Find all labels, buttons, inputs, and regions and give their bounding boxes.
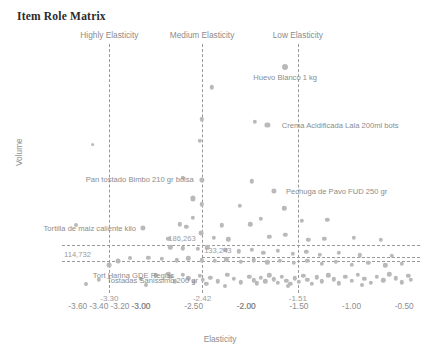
scatter-point[interactable] [263, 279, 267, 283]
scatter-point[interactable] [331, 277, 335, 281]
scatter-point[interactable] [184, 225, 188, 229]
scatter-point[interactable] [394, 276, 398, 280]
scatter-point[interactable] [200, 202, 204, 206]
scatter-point[interactable] [283, 233, 287, 237]
scatter-point[interactable] [304, 250, 308, 254]
scatter-point[interactable] [381, 278, 385, 282]
scatter-point[interactable] [237, 249, 241, 253]
scatter-point[interactable] [249, 248, 253, 252]
scatter-point[interactable] [199, 230, 204, 235]
scatter-point[interactable] [186, 256, 190, 260]
scatter-point[interactable] [107, 262, 112, 267]
scatter-point[interactable] [140, 225, 145, 230]
scatter-point[interactable] [190, 216, 194, 220]
scatter-point[interactable] [252, 119, 256, 123]
chart-root: Item Role Matrix Volume Elasticity 0k100… [0, 0, 440, 355]
quadrant-label: Highly Elasticity [80, 30, 138, 40]
scatter-point[interactable] [249, 179, 253, 183]
scatter-point[interactable] [408, 278, 412, 282]
scatter-point[interactable] [271, 189, 276, 194]
scatter-point[interactable] [375, 274, 379, 278]
scatter-point[interactable] [282, 206, 286, 210]
scatter-point[interactable] [84, 282, 88, 286]
scatter-point[interactable] [238, 203, 242, 207]
scatter-point[interactable] [325, 218, 329, 222]
scatter-point[interactable] [190, 196, 195, 201]
scatter-point[interactable] [387, 272, 391, 276]
scatter-point[interactable] [368, 280, 372, 284]
scatter-point[interactable] [255, 281, 259, 285]
point-annotation: Tostadas Sanissimo 200 gr [107, 275, 198, 284]
scatter-point[interactable] [231, 277, 235, 281]
scatter-point[interactable] [208, 276, 212, 280]
scatter-point[interactable] [225, 272, 229, 276]
scatter-point[interactable] [343, 275, 347, 279]
point-annotation: Crema Acidificada Lala 200ml bots [282, 120, 399, 129]
scatter-point[interactable] [320, 262, 324, 266]
scatter-point[interactable] [334, 260, 338, 264]
scatter-point[interactable] [400, 262, 404, 266]
quadrant-label: Medium Elasticity [170, 30, 235, 40]
scatter-point[interactable] [383, 263, 387, 267]
scatter-point[interactable] [306, 238, 310, 242]
scatter-point[interactable] [204, 281, 208, 285]
x-axis-label: Elasticity [0, 334, 440, 344]
scatter-point[interactable] [226, 237, 230, 241]
scatter-point[interactable] [400, 280, 404, 284]
scatter-plot-area[interactable] [62, 44, 420, 293]
scatter-point[interactable] [216, 279, 220, 283]
scatter-point[interactable] [199, 177, 204, 182]
scatter-point[interactable] [276, 280, 280, 284]
scatter-point[interactable] [326, 273, 330, 277]
scatter-point[interactable] [309, 281, 313, 285]
scatter-point[interactable] [351, 235, 355, 239]
scatter-point[interactable] [315, 275, 319, 279]
scatter-point[interactable] [290, 252, 294, 256]
scatter-point[interactable] [320, 279, 324, 283]
vertical-reference-value: -1.51 [289, 294, 307, 303]
scatter-point[interactable] [265, 260, 269, 264]
scatter-point[interactable] [300, 219, 304, 223]
scatter-point[interactable] [267, 235, 271, 239]
scatter-point[interactable] [259, 216, 263, 220]
scatter-point[interactable] [248, 222, 252, 226]
x-axis-tick: -3.00 [132, 301, 151, 311]
scatter-point[interactable] [349, 279, 353, 283]
scatter-point[interactable] [181, 246, 185, 250]
scatter-point[interactable] [200, 117, 204, 121]
horizontal-reference-value: 186,263 [168, 233, 195, 242]
scatter-point[interactable] [282, 64, 288, 70]
scatter-point[interactable] [322, 236, 326, 240]
scatter-point[interactable] [196, 247, 200, 251]
point-annotation: Pechuga de Pavo FUD 250 gr [286, 187, 387, 196]
scatter-point[interactable] [356, 272, 360, 276]
scatter-point[interactable] [168, 245, 172, 249]
scatter-point[interactable] [146, 256, 150, 260]
scatter-point[interactable] [223, 284, 227, 288]
scatter-point[interactable] [379, 238, 383, 242]
scatter-point[interactable] [366, 261, 370, 265]
scatter-point[interactable] [239, 280, 243, 284]
scatter-point[interactable] [291, 261, 295, 265]
scatter-point[interactable] [211, 236, 215, 240]
scatter-point[interactable] [212, 259, 216, 263]
scatter-point[interactable] [265, 122, 270, 127]
scatter-point[interactable] [276, 249, 280, 253]
scatter-point[interactable] [360, 283, 364, 287]
scatter-point[interactable] [362, 277, 366, 281]
scatter-point[interactable] [160, 257, 164, 261]
scatter-point[interactable] [349, 263, 353, 267]
scatter-point[interactable] [128, 256, 132, 260]
scatter-point[interactable] [91, 143, 95, 147]
scatter-point[interactable] [178, 222, 182, 226]
scatter-point[interactable] [337, 281, 341, 285]
scatter-point[interactable] [220, 223, 224, 227]
scatter-point[interactable] [261, 250, 265, 254]
scatter-point[interactable] [305, 259, 309, 263]
scatter-point[interactable] [239, 260, 243, 264]
scatter-point[interactable] [115, 259, 120, 264]
scatter-point[interactable] [297, 280, 301, 284]
scatter-point[interactable] [337, 251, 341, 255]
scatter-point[interactable] [286, 284, 290, 288]
scatter-point[interactable] [209, 85, 213, 89]
